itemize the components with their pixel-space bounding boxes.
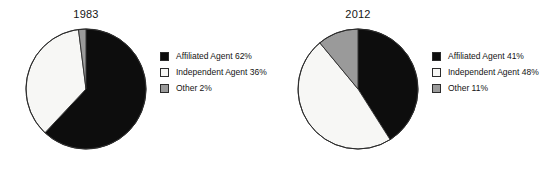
- legend-row: Independent Agent 48%: [432, 67, 539, 78]
- legend-row: Affiliated Agent 41%: [432, 51, 539, 62]
- chart-panel-2012: 2012 Affiliated Agent 41%Independent Age…: [272, 0, 544, 172]
- chart-title-1983: 1983: [0, 8, 172, 20]
- legend-swatch-icon: [432, 68, 441, 77]
- legend-row: Other 11%: [432, 83, 539, 94]
- pie-chart-figure: 1983 Affiliated Agent 62%Independent Age…: [0, 0, 544, 172]
- pie-2012-svg: [297, 28, 419, 150]
- pie-2012-slices: [298, 29, 418, 149]
- legend-label: Independent Agent 48%: [448, 67, 539, 78]
- pie-2012: [297, 28, 419, 150]
- chart-panel-1983: 1983 Affiliated Agent 62%Independent Age…: [0, 0, 272, 172]
- legend-swatch-icon: [432, 52, 441, 61]
- legend-2012: Affiliated Agent 41%Independent Agent 48…: [432, 51, 539, 94]
- legend-label: Other 2%: [176, 83, 212, 94]
- legend-swatch-icon: [160, 84, 169, 93]
- legend-row: Affiliated Agent 62%: [160, 51, 267, 62]
- pie-1983: [25, 28, 147, 150]
- legend-swatch-icon: [432, 84, 441, 93]
- legend-label: Other 11%: [448, 83, 488, 94]
- legend-swatch-icon: [160, 52, 169, 61]
- pie-1983-slices: [26, 29, 146, 149]
- legend-row: Other 2%: [160, 83, 267, 94]
- legend-swatch-icon: [160, 68, 169, 77]
- legend-row: Independent Agent 36%: [160, 67, 267, 78]
- legend-label: Affiliated Agent 41%: [448, 51, 524, 62]
- pie-1983-svg: [25, 28, 147, 150]
- legend-1983: Affiliated Agent 62%Independent Agent 36…: [160, 51, 267, 94]
- legend-label: Independent Agent 36%: [176, 67, 267, 78]
- chart-title-2012: 2012: [272, 8, 444, 20]
- legend-label: Affiliated Agent 62%: [176, 51, 252, 62]
